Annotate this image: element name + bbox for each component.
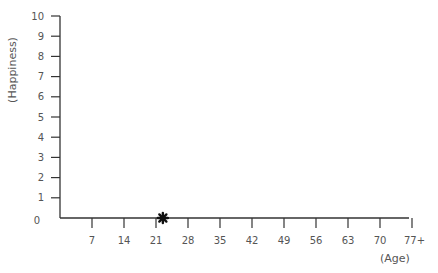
y-tick-label: 2 xyxy=(38,172,44,183)
y-axis-title: (Happiness) xyxy=(6,37,19,103)
x-tick-label: 35 xyxy=(214,235,227,246)
y-tick-label: 4 xyxy=(38,132,44,143)
y-tick-label: 6 xyxy=(38,91,44,102)
y-tick-label: 1 xyxy=(38,192,44,203)
x-tick-label: 77+ xyxy=(404,235,425,246)
y-tick-label: 7 xyxy=(38,71,44,82)
x-axis-ticks: 714212835424956637077+ xyxy=(89,218,425,246)
y-tick-label: 10 xyxy=(31,11,44,22)
x-tick-label: 63 xyxy=(342,235,355,246)
y-tick-label: 0 xyxy=(34,215,40,226)
x-axis-title: (Age) xyxy=(380,252,410,265)
x-tick-label: 7 xyxy=(89,235,95,246)
chart: 012345678910 714212835424956637077+ (Hap… xyxy=(0,0,438,273)
y-tick-label: 8 xyxy=(38,51,44,62)
y-tick-label: 5 xyxy=(38,112,44,123)
star-marker-icon xyxy=(158,213,168,223)
y-axis-ticks: 012345678910 xyxy=(31,11,60,227)
x-tick-label: 42 xyxy=(246,235,259,246)
axes xyxy=(60,16,409,218)
x-tick-label: 49 xyxy=(278,235,291,246)
x-tick-label: 70 xyxy=(374,235,387,246)
y-tick-label: 9 xyxy=(38,31,44,42)
x-tick-label: 21 xyxy=(150,235,163,246)
x-tick-label: 56 xyxy=(310,235,323,246)
data-points xyxy=(158,213,168,223)
y-tick-label: 3 xyxy=(38,152,44,163)
x-tick-label: 28 xyxy=(182,235,195,246)
x-tick-label: 14 xyxy=(118,235,131,246)
